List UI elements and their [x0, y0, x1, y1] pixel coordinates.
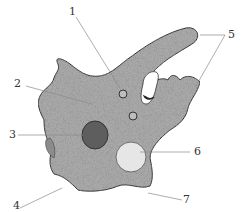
label-4: 4	[13, 200, 20, 211]
contractile-vacuole	[116, 142, 146, 172]
amoeba-diagram	[0, 0, 243, 212]
vacuole-1	[119, 90, 127, 98]
label-1: 1	[69, 6, 76, 17]
label-7: 7	[183, 194, 190, 205]
label-2: 2	[14, 78, 21, 89]
label-6: 6	[194, 146, 201, 157]
vacuole-2	[129, 112, 137, 120]
label-5: 5	[228, 29, 235, 40]
label-3: 3	[9, 129, 16, 140]
nucleus	[82, 121, 108, 149]
